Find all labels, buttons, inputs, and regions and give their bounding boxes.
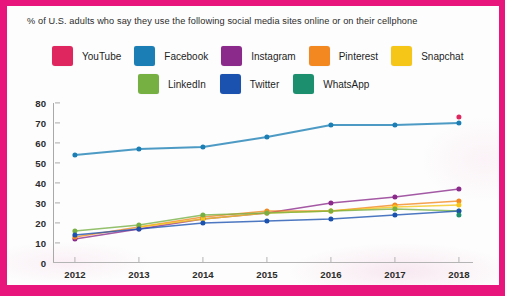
y-axis-tick-mark	[55, 122, 60, 123]
y-axis-tick-label: 40	[20, 178, 46, 189]
legend-swatch-icon-snapchat	[391, 46, 412, 66]
legend-label: YouTube	[82, 51, 121, 62]
x-axis-tick-label: 2016	[320, 269, 341, 280]
chart-frame: % of U.S. adults who say they use the fo…	[0, 0, 505, 296]
legend-item-twitter[interactable]: Twitter	[220, 74, 279, 94]
legend-item-youtube[interactable]: YouTube	[52, 46, 121, 66]
y-axis-tick-mark	[55, 202, 60, 203]
legend-swatch-icon-youtube	[52, 46, 73, 66]
x-axis-tick-mark	[330, 257, 331, 263]
legend-item-snapchat[interactable]: Snapchat	[391, 46, 463, 66]
legend-label: Instagram	[251, 51, 295, 62]
chart-title: % of U.S. adults who say they use the fo…	[27, 16, 482, 26]
legend-swatch-icon-instagram	[221, 46, 242, 66]
x-axis-tick-mark	[458, 257, 459, 263]
y-axis-tick-label: 50	[20, 158, 46, 169]
x-axis-tick-label: 2018	[448, 269, 469, 280]
legend-item-pinterest[interactable]: Pinterest	[309, 46, 378, 66]
x-axis-tick-mark	[202, 257, 203, 263]
y-axis-tick-label: 10	[20, 238, 46, 249]
legend-label: Pinterest	[339, 51, 378, 62]
x-axis-tick-label: 2014	[192, 269, 213, 280]
legend-label: Twitter	[250, 79, 279, 90]
y-axis-tick-label: 60	[20, 138, 46, 149]
legend-swatch-icon-facebook	[134, 46, 155, 66]
legend-item-linkedin[interactable]: LinkedIn	[138, 74, 206, 94]
x-axis-tick-label: 2017	[384, 269, 405, 280]
y-axis-tick-label: 20	[20, 218, 46, 229]
y-axis-tick-mark	[55, 162, 60, 163]
legend-label: WhatsApp	[323, 79, 369, 90]
x-axis-tick-label: 2015	[256, 269, 277, 280]
legend-item-facebook[interactable]: Facebook	[134, 46, 208, 66]
y-axis-tick-label: 0	[20, 258, 46, 269]
legend-swatch-icon-linkedin	[138, 74, 159, 94]
y-axis-tick-mark	[55, 222, 60, 223]
legend-label: Facebook	[164, 51, 208, 62]
x-axis-tick-label: 2013	[128, 269, 149, 280]
chart-card: % of U.S. adults who say they use the fo…	[7, 6, 499, 285]
series-lines	[53, 103, 473, 263]
legend-row-primary: YouTubeFacebookInstagramPinterestSnapcha…	[52, 46, 476, 66]
y-axis-tick-mark	[55, 242, 60, 243]
legend-label: Snapchat	[421, 51, 463, 62]
y-axis-tick-label: 70	[20, 118, 46, 129]
x-axis-tick-mark	[74, 257, 75, 263]
legend-swatch-icon-whatsapp	[293, 74, 314, 94]
legend-item-whatsapp[interactable]: WhatsApp	[293, 74, 369, 94]
legend-swatch-icon-pinterest	[309, 46, 330, 66]
y-axis-tick-label: 30	[20, 198, 46, 209]
x-axis-tick-mark	[266, 257, 267, 263]
y-axis-tick-mark	[55, 102, 60, 103]
legend-item-instagram[interactable]: Instagram	[221, 46, 295, 66]
legend-swatch-icon-twitter	[220, 74, 241, 94]
y-axis-tick-label: 80	[20, 98, 46, 109]
x-axis-tick-label: 2012	[64, 269, 85, 280]
legend-row-secondary: LinkedInTwitterWhatsApp	[138, 74, 383, 94]
y-axis-tick-mark	[55, 142, 60, 143]
y-axis-tick-mark	[55, 182, 60, 183]
x-axis-tick-mark	[138, 257, 139, 263]
x-axis-tick-mark	[394, 257, 395, 263]
legend-label: LinkedIn	[168, 79, 206, 90]
plot-area: 0102030405060708020122013201420152016201…	[53, 103, 473, 263]
